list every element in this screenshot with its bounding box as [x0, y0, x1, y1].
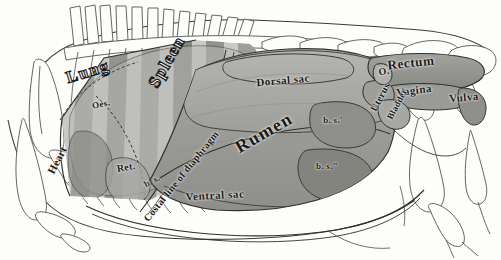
hindlimb-bones — [409, 117, 490, 258]
flank-contours — [330, 186, 405, 248]
anatomical-figure: LungOes.SpleenCostal line of diaphragmHe… — [0, 0, 501, 260]
anatomy-drawing — [0, 0, 501, 260]
